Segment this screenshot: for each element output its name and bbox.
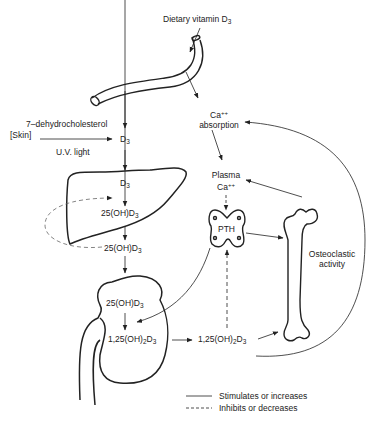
- arrow-pth-to-bone: [246, 233, 283, 238]
- arrow-loop-to-ca-absorption: [245, 122, 365, 356]
- label-osteoclastic-activity: Osteoclastic activity: [302, 249, 362, 269]
- label-1-25-oh2-d3-blood: 1,25(OH)2D3: [198, 334, 246, 347]
- arrow-intestine-to-ca-absorption: [186, 72, 198, 98]
- label-25oh-d3-blood: 25(OH)D3: [104, 243, 142, 256]
- label-ca-absorption: Ca++ absorption: [194, 108, 244, 130]
- legend-stimulates: Stimulates or increases: [219, 391, 307, 401]
- intestine-shape: [89, 35, 203, 107]
- label-dietary-vitamin-d3: Dietary vitamin D3: [163, 14, 231, 27]
- arrow-bone-to-plasma: [246, 180, 302, 197]
- label-25oh-d3-liver: 25(OH)D3: [101, 208, 139, 221]
- label-d3-skin: D3: [120, 134, 130, 147]
- label-plasma-ca: Plasma Ca++: [206, 170, 246, 192]
- label-1-25-oh2-d3-kidney: 1,25(OH)2D3: [108, 334, 156, 347]
- label-25oh-d3-kidney: 25(OH)D3: [106, 298, 144, 311]
- label-d3-liver: D3: [120, 178, 130, 191]
- label-pth: PTH: [218, 224, 235, 234]
- diagram-canvas: [0, 0, 375, 421]
- label-uv-light: U.V. light: [56, 147, 90, 157]
- arrow-pth-to-kidney: [137, 248, 210, 322]
- legend-inhibits: Inhibits or decreases: [219, 403, 297, 413]
- label-7-dehydrocholesterol: 7–dehydrocholesterol: [26, 119, 107, 129]
- bone-shape: [284, 209, 318, 341]
- arrow-ca-absorption-to-plasma: [212, 130, 222, 160]
- arrow-dihydroxy-to-bone: [258, 332, 278, 339]
- label-skin: [Skin]: [10, 130, 31, 140]
